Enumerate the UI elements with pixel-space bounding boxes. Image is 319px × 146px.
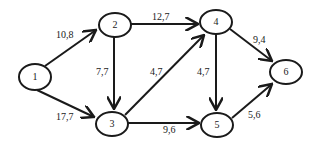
edge-1-3: 17,7	[37, 90, 94, 122]
edge-weight: 4,7	[150, 66, 163, 77]
node-label: 2	[113, 19, 118, 30]
edge-weight: 12,7	[152, 11, 170, 22]
node-2: 2	[99, 13, 131, 37]
node-5: 5	[201, 113, 233, 137]
edge-weight: 4,7	[197, 66, 210, 77]
node-label: 1	[33, 71, 38, 82]
edge-2-3: 7,7	[96, 37, 114, 109]
node-label: 5	[215, 119, 220, 130]
edge-3-4: 4,7	[125, 35, 204, 115]
edge-weight: 9,4	[253, 34, 266, 45]
edge-weight: 5,6	[248, 109, 261, 120]
edge-3-5: 9,6	[128, 123, 199, 135]
edge-weight: 17,7	[56, 111, 74, 122]
node-6: 6	[270, 60, 302, 84]
edge-1-2: 10,8	[45, 29, 96, 66]
edge-weight: 9,6	[163, 124, 176, 135]
edge-2-4: 12,7	[130, 11, 198, 24]
graph-diagram: 10,8 17,7 12,7 7,7 4,7 9,6 4,7 9,4 5,6 1…	[0, 0, 319, 146]
edge-5-6: 5,6	[232, 84, 272, 120]
node-4: 4	[200, 10, 232, 34]
edge-weight: 7,7	[96, 66, 109, 77]
node-3: 3	[96, 112, 128, 136]
node-label: 6	[284, 66, 289, 77]
edge-4-6: 9,4	[230, 29, 272, 61]
node-label: 4	[214, 16, 219, 27]
edge-weight: 10,8	[56, 29, 74, 40]
edge-4-5: 4,7	[197, 34, 216, 110]
node-label: 3	[110, 118, 115, 129]
node-1: 1	[19, 64, 51, 90]
